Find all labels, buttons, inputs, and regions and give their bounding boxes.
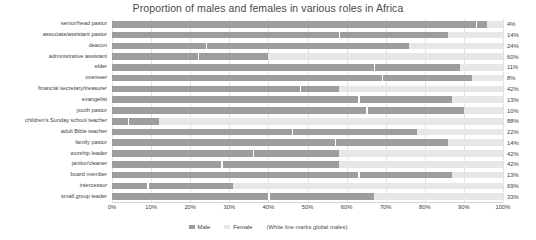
- bar-segment-female: [487, 21, 503, 28]
- bar-row: [112, 43, 503, 50]
- y-axis-label: senior/head pastor: [61, 21, 107, 27]
- gridline: [503, 19, 504, 202]
- legend-swatch-male-icon: [189, 225, 195, 229]
- global-males-marker: [268, 193, 269, 200]
- bar-row: [112, 86, 503, 93]
- bar-segment-female: [339, 86, 503, 93]
- global-males-marker: [292, 129, 293, 136]
- bar-segment-female: [233, 183, 503, 190]
- x-tick-label: 90%: [458, 204, 470, 210]
- bar-segment-female: [448, 139, 503, 146]
- global-males-marker: [358, 172, 359, 179]
- global-males-marker: [198, 53, 199, 60]
- bar-segment-female: [452, 172, 503, 179]
- bar-value-label: 33%: [507, 194, 519, 200]
- bar-row: [112, 96, 503, 103]
- x-tick-label: 0%: [108, 204, 116, 210]
- bar-segment-female: [339, 150, 503, 157]
- bar-value-label: 69%: [507, 183, 519, 189]
- bar-segment-male: [112, 86, 339, 93]
- global-males-marker: [206, 43, 207, 50]
- y-axis-label: janitor/cleaner: [72, 161, 107, 167]
- bar-row: [112, 75, 503, 82]
- global-males-marker: [382, 75, 383, 82]
- y-axis-label: overseer: [85, 75, 107, 81]
- bar-value-label: 22%: [507, 129, 519, 135]
- x-tick-label: 50%: [302, 204, 314, 210]
- bar-segment-female: [448, 32, 503, 39]
- y-axis-label: elder: [95, 64, 107, 70]
- legend-note: (White line marks global males): [267, 224, 348, 230]
- bar-segment-male: [112, 107, 464, 114]
- bar-segment-male: [112, 129, 417, 136]
- bar-value-label: 14%: [507, 32, 519, 38]
- bar-value-label: 24%: [507, 43, 519, 49]
- bar-value-label: 8%: [507, 75, 515, 81]
- bar-segment-female: [159, 118, 503, 125]
- bar-segment-female: [472, 75, 503, 82]
- bar-segment-male: [112, 53, 268, 60]
- x-axis-tick-labels: 0%10%20%30%40%50%60%70%80%90%100%: [0, 204, 536, 218]
- bar-segment-male: [112, 139, 448, 146]
- bar-value-label: 13%: [507, 172, 519, 178]
- bar-segment-male: [112, 172, 452, 179]
- x-tick-label: 100%: [496, 204, 511, 210]
- global-males-marker: [476, 21, 477, 28]
- chart-legend: Male Female (White line marks global mal…: [0, 224, 536, 230]
- bar-row: [112, 129, 503, 136]
- bar-value-label: 60%: [507, 54, 519, 60]
- bar-row: [112, 118, 503, 125]
- bar-value-label: 14%: [507, 140, 519, 146]
- bar-row: [112, 21, 503, 28]
- legend-swatch-female-icon: [224, 225, 230, 229]
- x-tick-label: 30%: [223, 204, 235, 210]
- y-axis-label: worship leader: [71, 151, 107, 157]
- bar-segment-male: [112, 161, 339, 168]
- bar-segment-male: [112, 64, 460, 71]
- bar-row: [112, 53, 503, 60]
- bar-row: [112, 172, 503, 179]
- legend-item-female: Female: [224, 224, 252, 230]
- bar-value-label: 13%: [507, 97, 519, 103]
- bar-segment-female: [452, 96, 503, 103]
- y-axis-label: evangelist: [82, 97, 107, 103]
- bar-value-label: 42%: [507, 161, 519, 167]
- bar-row: [112, 193, 503, 200]
- plot-area: 4%14%24%60%11%8%42%13%10%88%22%14%42%42%…: [112, 19, 503, 202]
- bar-row: [112, 150, 503, 157]
- chart-container: Proportion of males and females in vario…: [0, 0, 536, 240]
- bar-row: [112, 183, 503, 190]
- bar-value-label: 88%: [507, 118, 519, 124]
- bar-segment-female: [374, 193, 503, 200]
- y-axis-label: children's Sunday school teacher: [25, 118, 107, 124]
- bar-segment-female: [268, 53, 503, 60]
- global-males-marker: [221, 161, 222, 168]
- bar-segment-male: [112, 193, 374, 200]
- bar-segment-female: [464, 107, 503, 114]
- y-axis-label: financial secretary/treasurer: [38, 86, 107, 92]
- global-males-marker: [374, 64, 375, 71]
- global-males-marker: [358, 96, 359, 103]
- bar-value-label: 4%: [507, 21, 515, 27]
- bar-value-label: 11%: [507, 64, 518, 70]
- global-males-marker: [335, 139, 336, 146]
- bar-segment-female: [460, 64, 503, 71]
- bar-segment-male: [112, 75, 472, 82]
- global-males-marker: [366, 107, 367, 114]
- x-tick-label: 60%: [341, 204, 353, 210]
- bar-value-label: 10%: [507, 108, 519, 114]
- y-axis-label: board member: [71, 172, 107, 178]
- bar-row: [112, 32, 503, 39]
- global-males-marker: [253, 150, 254, 157]
- global-males-marker: [300, 86, 301, 93]
- y-axis-label: family pastor: [75, 140, 107, 146]
- y-axis-label: administrative assistant: [49, 54, 107, 60]
- bar-segment-male: [112, 183, 233, 190]
- bar-segment-male: [112, 43, 409, 50]
- x-axis-line: [112, 202, 503, 203]
- y-axis-label: adult Bible teacher: [61, 129, 107, 135]
- global-males-marker: [128, 118, 129, 125]
- y-axis-label: deacon: [89, 43, 107, 49]
- bar-segment-male: [112, 21, 487, 28]
- legend-label-male: Male: [198, 224, 211, 230]
